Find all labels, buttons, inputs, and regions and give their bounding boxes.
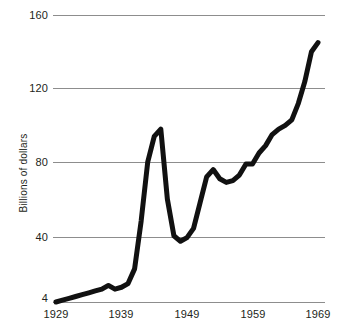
xtick-label-1959: 1959	[229, 309, 277, 320]
xtick-label-1929: 1929	[32, 309, 80, 320]
xtick-label-1939: 1939	[97, 309, 145, 320]
ytick-label-4: 4	[8, 293, 48, 304]
ytick-label-40: 40	[8, 232, 48, 243]
xtick-label-1949: 1949	[163, 309, 211, 320]
ytick-label-160: 160	[8, 10, 48, 21]
y-axis-title: Billions of dollars	[19, 128, 29, 218]
chart-plot-area	[0, 0, 347, 330]
data-series-line	[56, 43, 318, 302]
xtick-label-1969: 1969	[294, 309, 342, 320]
ytick-label-120: 120	[8, 83, 48, 94]
chart-figure: 160 120 80 40 4 1929 1939 1949 1959 1969…	[0, 0, 347, 330]
